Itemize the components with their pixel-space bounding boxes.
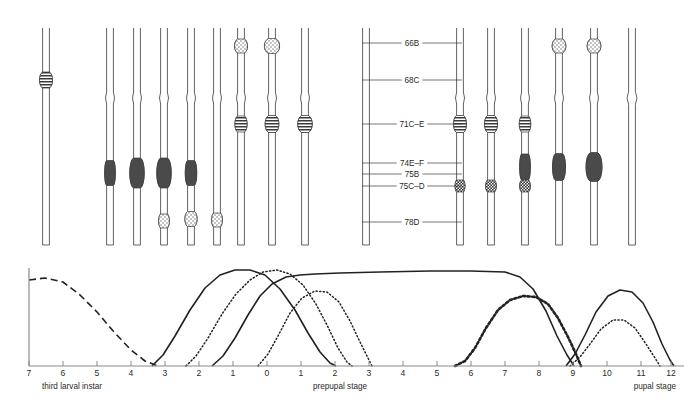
solid-puff bbox=[553, 154, 566, 181]
strand-outline-left bbox=[298, 28, 302, 245]
dense-stippled-puff bbox=[486, 180, 497, 192]
solid-puff bbox=[105, 161, 116, 186]
stage-label-prepupal-stage: prepupal stage bbox=[313, 382, 368, 391]
solid-puff bbox=[130, 158, 144, 188]
solid-puff bbox=[520, 154, 531, 180]
strand-outline-left bbox=[40, 28, 43, 245]
axis-tick-label: 1 bbox=[299, 368, 304, 378]
stage-label-third-larval-instar: third larval instar bbox=[42, 382, 102, 391]
strand-outline-right bbox=[463, 28, 466, 245]
region-label-group: 66B68C71C–E74E–F75B75C–D78D bbox=[362, 39, 462, 227]
axis-tick-label: 4 bbox=[129, 368, 134, 378]
region-label-text: 78D bbox=[404, 218, 419, 227]
strand-outline-left bbox=[519, 28, 521, 245]
axis-tick-label: 7 bbox=[503, 368, 508, 378]
stippled-puff bbox=[212, 213, 223, 227]
strand-outline-right bbox=[528, 28, 530, 245]
strand-outline-right bbox=[49, 28, 52, 245]
axis-tick-label: 1 bbox=[231, 368, 236, 378]
chromosome-strand bbox=[235, 28, 248, 245]
axis-tick-label: 2 bbox=[333, 368, 338, 378]
strand-outline-right bbox=[308, 28, 312, 245]
stippled-puff bbox=[159, 214, 170, 228]
strand-outline-left bbox=[105, 28, 107, 245]
chromosome-strand bbox=[298, 28, 312, 245]
banded-puff bbox=[485, 116, 498, 133]
chromosome-strand bbox=[105, 28, 116, 245]
strand-outline-right bbox=[275, 28, 279, 245]
region-label-text: 68C bbox=[404, 76, 419, 85]
strand-outline-right bbox=[494, 28, 497, 245]
axis-tick-label: 3 bbox=[367, 368, 372, 378]
stippled-puff bbox=[264, 39, 279, 54]
chromosome-strand bbox=[454, 28, 467, 245]
region-label: 75C–D bbox=[362, 182, 462, 191]
strand-outline-left bbox=[552, 28, 555, 245]
axis-tick-label: 3 bbox=[163, 368, 168, 378]
chromosome-panel bbox=[40, 28, 637, 245]
region-label: 74E–F bbox=[362, 159, 462, 168]
axis-tick-label: 6 bbox=[61, 368, 66, 378]
axis-tick-label: 6 bbox=[469, 368, 474, 378]
figure-root: 66B68C71C–E74E–F75B75C–D78D 765432101234… bbox=[0, 0, 684, 408]
region-label-text: 75C–D bbox=[399, 182, 425, 191]
region-label: 66B bbox=[362, 39, 462, 48]
banded-puff bbox=[298, 116, 312, 133]
stippled-puff bbox=[587, 39, 601, 53]
puff-curve-intermolt-puff-rise bbox=[212, 271, 574, 366]
time-axis: 76543210123456789101112third larval inst… bbox=[27, 268, 684, 391]
axis-tick-label: 2 bbox=[197, 368, 202, 378]
axis-tick-label: 9 bbox=[571, 368, 576, 378]
strand-outline-right bbox=[562, 28, 565, 245]
strand-outline-right bbox=[140, 28, 144, 245]
axis-tick-label: 5 bbox=[435, 368, 440, 378]
banded-puff bbox=[265, 116, 279, 133]
puff-curve-late-puff-II bbox=[455, 296, 581, 366]
strand-outline-left bbox=[485, 28, 488, 245]
solid-puff bbox=[185, 161, 196, 186]
chromosome-strand bbox=[519, 28, 530, 245]
strand-outline-right bbox=[635, 28, 637, 245]
strand-outline-left bbox=[627, 28, 629, 245]
chromosome-strand bbox=[130, 28, 144, 245]
region-label-text: 66B bbox=[405, 39, 420, 48]
strand-outline-right bbox=[220, 28, 222, 245]
stage-label-pupal-stage: pupal stage bbox=[634, 382, 677, 391]
chromosome-strand bbox=[185, 28, 197, 245]
stippled-puff bbox=[235, 39, 248, 53]
solid-puff bbox=[586, 153, 602, 182]
chromosome-strand bbox=[586, 28, 602, 245]
region-label-text: 75B bbox=[405, 170, 420, 179]
banded-puff bbox=[40, 72, 53, 88]
strand-outline-right bbox=[244, 28, 247, 245]
axis-tick-label: 4 bbox=[401, 368, 406, 378]
strand-outline-right bbox=[167, 28, 171, 245]
strand-outline-left bbox=[586, 28, 591, 245]
banded-puff bbox=[519, 116, 530, 132]
region-label-text: 74E–F bbox=[400, 159, 424, 168]
strand-outline-left bbox=[157, 28, 161, 245]
chromosome-strand bbox=[157, 28, 171, 245]
region-label: 71C–E bbox=[362, 120, 462, 129]
puff-curve-pupal-puff-II bbox=[570, 320, 660, 366]
stippled-puff bbox=[552, 39, 566, 53]
axis-tick-label: 0 bbox=[265, 368, 270, 378]
strand-outline-left bbox=[130, 28, 134, 245]
region-label: 78D bbox=[362, 218, 462, 227]
region-label-text: 71C–E bbox=[399, 120, 425, 129]
chromosome-strand bbox=[485, 28, 498, 245]
axis-tick-label: 7 bbox=[27, 368, 32, 378]
region-label: 68C bbox=[362, 76, 462, 85]
axis-tick-label: 11 bbox=[637, 368, 646, 378]
stippled-puff bbox=[185, 212, 197, 227]
axis-tick-label: 10 bbox=[602, 368, 612, 378]
axis-tick-label: 8 bbox=[537, 368, 542, 378]
puff-curve-intermolt-puff-decay bbox=[29, 278, 158, 366]
dense-stippled-puff bbox=[520, 180, 531, 192]
strand-outline-left bbox=[212, 28, 214, 245]
puffing-curve-plot bbox=[29, 270, 674, 366]
solid-puff bbox=[157, 158, 171, 188]
chromosome-strand bbox=[40, 28, 53, 245]
figure-canvas: 66B68C71C–E74E–F75B75C–D78D 765432101234… bbox=[0, 0, 684, 408]
chromosome-strand bbox=[552, 28, 566, 245]
